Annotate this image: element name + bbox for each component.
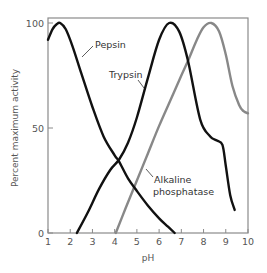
x-axis-label: pH: [142, 253, 154, 263]
alkaline-phosphatase-curve: [116, 23, 248, 233]
x-tick-label: 7: [178, 236, 184, 247]
trypsin-leader-line: [138, 80, 144, 88]
x-tick-label: 9: [223, 236, 229, 247]
x-tick-label: 8: [201, 236, 207, 247]
pepsin-leader-line: [82, 46, 93, 57]
y-tick-label: 100: [26, 18, 44, 29]
axes: 12345678910050100: [26, 18, 254, 248]
series-layer: [48, 23, 248, 233]
trypsin-label: Trypsin: [108, 69, 143, 80]
alkaline-phosphatase-leader-line: [146, 169, 153, 177]
x-tick-label: 10: [242, 236, 254, 247]
y-tick-label: 50: [32, 123, 44, 134]
x-tick-label: 4: [112, 236, 118, 247]
x-tick-label: 6: [156, 236, 162, 247]
x-tick-label: 5: [134, 236, 140, 247]
x-tick-label: 3: [89, 236, 95, 247]
y-tick-label: 0: [38, 228, 44, 239]
x-tick-label: 2: [67, 236, 73, 247]
alkaline-phosphatase-label-line1: Alkaline: [154, 174, 192, 185]
chart: 12345678910050100 pH Percent maximum act…: [0, 0, 267, 273]
plot-frame: [48, 18, 248, 233]
pepsin-label: Pepsin: [95, 39, 126, 50]
x-tick-label: 1: [45, 236, 51, 247]
y-axis-label: Percent maximum activity: [10, 68, 20, 187]
alkaline-phosphatase-label-line2: phosphatase: [153, 186, 214, 197]
